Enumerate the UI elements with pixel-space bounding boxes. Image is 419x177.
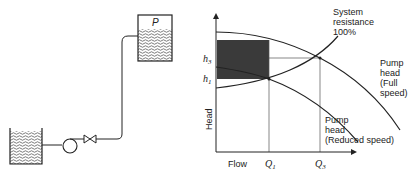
q3-label: Q3 xyxy=(315,158,326,171)
upper-tank-label: P xyxy=(152,17,159,28)
discharge-pipe xyxy=(96,36,138,139)
upper-tank: P xyxy=(138,15,172,61)
energy-saving-region xyxy=(217,40,269,79)
system-resistance-label: System resistance 100% xyxy=(333,7,377,37)
q1-label: Q1 xyxy=(265,158,276,171)
valve-icon xyxy=(84,135,96,143)
h3-label: h3 xyxy=(203,53,212,66)
pump-system-diagram: P h3 h1 Head Flow Q1 xyxy=(0,0,419,177)
h1-label: h1 xyxy=(203,73,212,86)
full-speed-label: Pump head (Full speed) xyxy=(380,58,408,98)
pump-icon xyxy=(63,139,77,153)
x-axis-arrow-icon xyxy=(351,149,357,155)
reduced-speed-label: Pump head (Reduced speed) xyxy=(325,115,394,145)
pump-curve-chart: h3 h1 Head Flow Q1 Q3 System resistance … xyxy=(203,7,408,171)
supply-tank xyxy=(10,128,42,164)
x-axis-label: Flow xyxy=(228,159,248,169)
y-axis-label: Head xyxy=(204,108,214,130)
y-axis-arrow-icon xyxy=(213,13,219,19)
